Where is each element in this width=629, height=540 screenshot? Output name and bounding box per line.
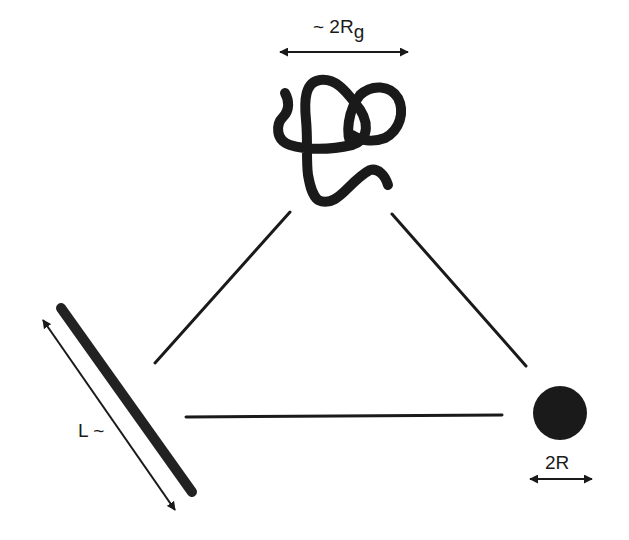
connector-coil-rod [155,212,290,363]
sphere-size-text: 2R [545,452,569,473]
rod-length-text: L ~ [78,420,104,441]
sphere-size-label: 2R [545,452,569,474]
rod-shape [61,308,192,492]
coil-size-label: ~ 2Rg [313,16,364,38]
random-coil-shape [278,80,401,202]
coil-size-subscript: g [354,21,365,42]
shape-triangle-diagram [0,0,629,540]
coil-size-prefix: ~ 2R [313,16,354,37]
rod-length-label: L ~ [78,420,104,442]
connector-coil-sphere [392,214,526,366]
connector-rod-sphere [186,415,502,417]
sphere-shape [533,386,587,440]
rod-length-arrow [43,320,175,510]
